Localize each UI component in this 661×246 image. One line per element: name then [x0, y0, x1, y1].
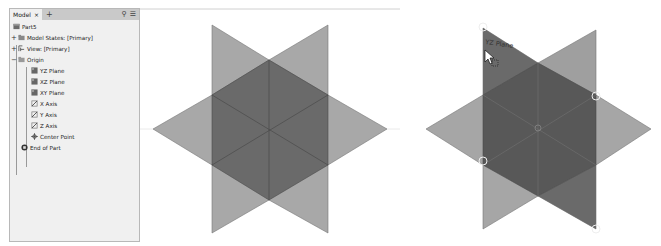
origin-planes-hover: YZ Plane — [426, 23, 651, 233]
origin-planes-default — [153, 25, 387, 233]
graphics-viewport[interactable]: YZ Plane — [0, 0, 661, 246]
